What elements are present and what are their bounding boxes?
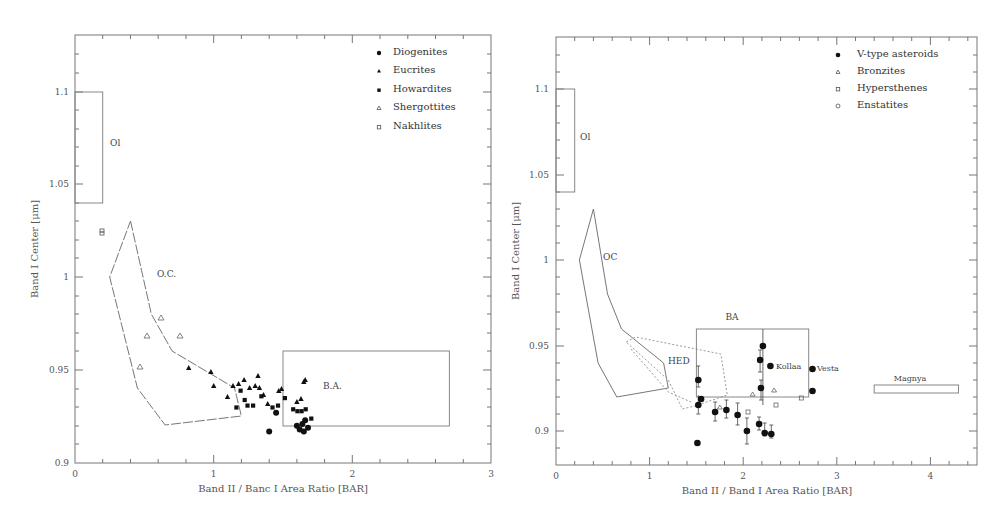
right-chart-panel: 0 1 2 3 4 0.9 0.95 1 1.05 1.1 Band II / … xyxy=(500,0,1007,515)
legend-label: Bronzites xyxy=(857,65,905,76)
series-nakhlites xyxy=(100,229,104,235)
region-ol-label: Ol xyxy=(110,138,120,148)
legend-marker-v-type-icon xyxy=(836,53,841,58)
legend-marker-howardites-icon xyxy=(377,89,380,92)
y-tick-label: 1.05 xyxy=(49,179,69,189)
x-ticks xyxy=(575,37,968,465)
y-ticks xyxy=(556,55,977,448)
series-eucrites xyxy=(186,365,308,406)
y-axis-label: Band I Center [μm] xyxy=(29,200,40,298)
y-tick-label: 0.95 xyxy=(529,341,549,351)
region-oc xyxy=(110,221,242,425)
region-ol xyxy=(75,92,103,203)
region-hed-label: HED xyxy=(668,356,690,366)
legend: V-type asteroids Bronzites Hypersthenes … xyxy=(836,48,939,110)
legend-label: Shergottites xyxy=(393,101,456,112)
magnya-label: Magnya xyxy=(894,374,927,383)
x-tick-label: 4 xyxy=(928,471,934,481)
y-tick-label: 0.9 xyxy=(535,426,550,436)
left-chart-panel: 0 1 2 3 0.9 0.95 1 1.05 1.1 Band II / Ba… xyxy=(0,0,500,515)
region-hed xyxy=(626,337,727,409)
vesta-label: Vesta xyxy=(816,364,839,373)
x-tick-label: 0 xyxy=(72,469,78,479)
series-hypersthenes xyxy=(746,396,803,414)
series-v-type-asteroids xyxy=(694,329,816,446)
right-scatter-plot: 0 1 2 3 4 0.9 0.95 1 1.05 1.1 Band II / … xyxy=(500,0,1007,515)
legend-marker-bronzites-icon xyxy=(836,70,840,74)
region-ol-label: Ol xyxy=(580,132,590,142)
legend-marker-eucrites-icon xyxy=(377,69,381,73)
series-shergottites xyxy=(137,315,183,369)
y-tick-label: 1 xyxy=(543,255,549,265)
legend-marker-hypersthenes-icon xyxy=(836,88,839,91)
region-oc xyxy=(579,209,668,397)
y-tick-label: 0.9 xyxy=(55,458,70,468)
x-tick-label: 0 xyxy=(553,471,559,481)
region-oc-label: OC xyxy=(603,252,617,262)
legend-marker-enstatites-icon xyxy=(836,104,840,108)
y-tick-label: 1.05 xyxy=(529,170,549,180)
kollaa-label: Kollaa xyxy=(776,362,801,371)
legend-label: V-type asteroids xyxy=(856,48,938,59)
x-tick-label: 1 xyxy=(647,471,653,481)
plot-frame xyxy=(556,37,977,465)
x-tick-label: 2 xyxy=(349,469,355,479)
legend-marker-diogenites-icon xyxy=(377,51,381,55)
left-scatter-plot: 0 1 2 3 0.9 0.95 1 1.05 1.1 Band II / Ba… xyxy=(0,0,500,515)
y-tick-label: 1.1 xyxy=(535,84,549,94)
legend-label: Nakhlites xyxy=(393,120,442,131)
legend-marker-nakhlites-icon xyxy=(377,126,380,129)
x-tick-label: 3 xyxy=(488,469,494,479)
legend-label: Diogenites xyxy=(393,46,447,57)
region-ba-label: B.A. xyxy=(323,381,342,391)
region-magnya xyxy=(874,385,958,393)
region-ba-label: BA xyxy=(725,312,739,322)
x-axis-label: Band II / Band I Area Ratio [BAR] xyxy=(682,485,853,496)
series-howardites xyxy=(234,389,313,421)
legend-marker-shergottites-icon xyxy=(377,106,381,110)
region-ba xyxy=(283,351,449,426)
y-tick-label: 0.95 xyxy=(49,365,69,375)
y-axis-label: Band I Center [μm] xyxy=(510,202,521,300)
legend-label: Hypersthenes xyxy=(857,82,927,93)
legend-label: Howardites xyxy=(393,83,452,94)
x-tick-label: 3 xyxy=(834,471,840,481)
x-axis-label: Band II / Banc I Area Ratio [BAR] xyxy=(198,483,368,494)
y-tick-label: 1.1 xyxy=(55,87,69,97)
y-tick-label: 1 xyxy=(63,272,69,282)
x-tick-label: 1 xyxy=(211,469,217,479)
legend-label: Enstatites xyxy=(857,99,908,110)
series-diogenites xyxy=(266,410,311,435)
region-oc-label: O.C. xyxy=(157,269,176,279)
x-tick-label: 2 xyxy=(740,471,746,481)
legend: Diogenites Eucrites Howardites Shergotti… xyxy=(377,46,456,131)
legend-label: Eucrites xyxy=(393,64,435,75)
